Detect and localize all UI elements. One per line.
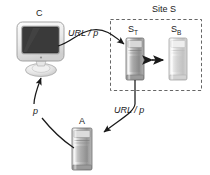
diagram-canvas: C Site S ST SB A URL / p URL / p p — [0, 0, 210, 175]
edge-a-to-c-upper — [34, 78, 41, 104]
edge-a-to-c — [42, 118, 74, 148]
tower-server-sb-icon — [169, 38, 187, 80]
edge-label-st-to-a: URL / p — [114, 106, 144, 115]
node-label-server-sb-sub: B — [177, 29, 181, 36]
node-label-server-sb: SB — [171, 25, 181, 36]
node-label-server-st: ST — [128, 25, 138, 36]
site-s-group-border — [111, 20, 202, 91]
site-s-group-label: Site S — [152, 5, 176, 14]
edge-label-client-to-st: URL / p — [68, 29, 98, 38]
tower-server-a-icon — [72, 128, 92, 170]
crt-monitor-icon — [17, 22, 64, 77]
tower-server-st-icon — [126, 38, 144, 80]
node-label-client: C — [36, 9, 43, 18]
node-label-server-st-sub: T — [134, 29, 138, 36]
edge-label-a-to-c: p — [33, 107, 38, 116]
node-label-server-a: A — [79, 117, 85, 126]
